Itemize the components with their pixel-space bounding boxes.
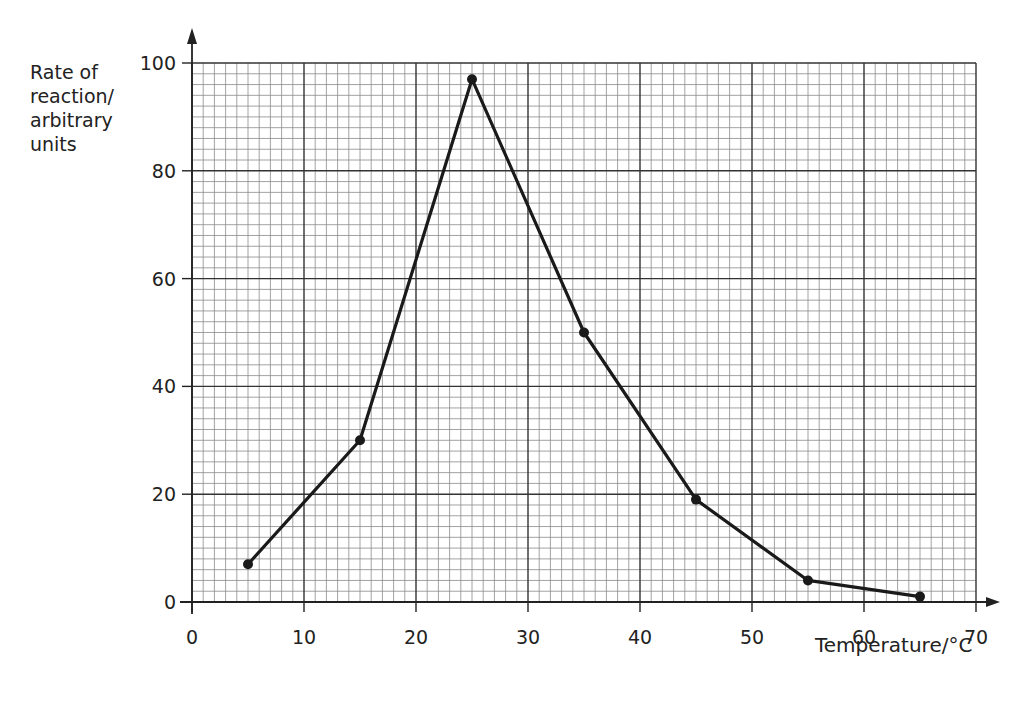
- svg-text:40: 40: [152, 375, 176, 397]
- svg-text:50: 50: [740, 626, 764, 648]
- svg-text:20: 20: [404, 626, 428, 648]
- svg-text:40: 40: [628, 626, 652, 648]
- y-axis-label-line-3: arbitrary: [30, 108, 114, 132]
- svg-text:0: 0: [186, 626, 198, 648]
- y-axis-label-line-2: reaction/: [30, 84, 114, 108]
- svg-text:10: 10: [292, 626, 316, 648]
- y-axis-label: Rate of reaction/ arbitrary units: [30, 60, 114, 156]
- data-point: [579, 328, 589, 338]
- svg-text:30: 30: [516, 626, 540, 648]
- svg-text:80: 80: [152, 160, 176, 182]
- svg-text:60: 60: [152, 268, 176, 290]
- data-point: [355, 435, 365, 445]
- axes: [180, 28, 1000, 614]
- data-point: [915, 592, 925, 602]
- svg-text:0: 0: [164, 591, 176, 613]
- data-point: [803, 575, 813, 585]
- data-point: [243, 559, 253, 569]
- y-axis-label-line-1: Rate of: [30, 60, 114, 84]
- data-point: [691, 495, 701, 505]
- svg-text:20: 20: [152, 483, 176, 505]
- y-axis-label-line-4: units: [30, 132, 114, 156]
- svg-text:100: 100: [140, 52, 176, 74]
- line-chart: 010203040506070020406080100: [0, 0, 1034, 710]
- x-axis-label: Temperature/°C: [815, 633, 972, 657]
- data-point: [467, 74, 477, 84]
